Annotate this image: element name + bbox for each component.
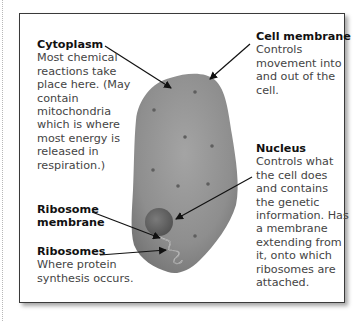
cell-membrane-description: Controls movement into and out of the ce… [256, 43, 351, 97]
ribosomes-description: Where protein synthesis occurs. [37, 258, 133, 285]
ribosomes-title: Ribosomes [37, 245, 133, 258]
ribosome-membrane-label: Ribosome membrane [37, 203, 105, 230]
nucleus-description: Controls what the cell does and contains… [256, 155, 349, 289]
nucleus-title: Nucleus [256, 142, 349, 155]
cell-membrane-arrow [210, 44, 250, 79]
cytoplasm-label: Cytoplasm Most chemical reactions take p… [37, 38, 130, 172]
cell-body [132, 74, 238, 273]
ribosomes-label: Ribosomes Where protein synthesis occurs… [37, 245, 133, 285]
cell-membrane-label: Cell membrane Controls movement into and… [256, 30, 351, 97]
cell-membrane-title: Cell membrane [256, 30, 351, 43]
nucleus-label: Nucleus Controls what the cell does and … [256, 142, 349, 289]
nucleus [145, 208, 173, 236]
cytoplasm-title: Cytoplasm [37, 38, 130, 51]
cytoplasm-description: Most chemical reactions take place here.… [37, 51, 130, 172]
ribosome-membrane-title: Ribosome membrane [37, 203, 105, 230]
